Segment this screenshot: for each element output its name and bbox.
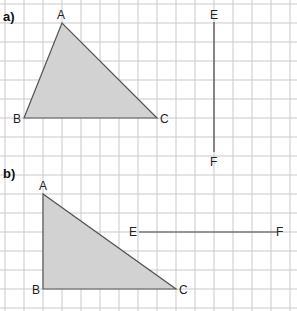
part-b: b) A B C E F — [3, 166, 283, 297]
vertex-c-label: C — [160, 112, 169, 126]
vertex-a-label: A — [39, 179, 47, 193]
vertex-a-label: A — [57, 8, 65, 22]
point-e-label: E — [129, 225, 137, 239]
point-f-label: F — [276, 225, 283, 239]
triangle-abc-a — [24, 23, 157, 118]
point-e-label: E — [210, 8, 218, 22]
part-a: a) A B C E F — [3, 8, 218, 169]
part-b-label: b) — [3, 166, 15, 181]
vertex-b-label: B — [32, 283, 40, 297]
diagram-canvas: a) A B C E F b) A B C E F — [0, 0, 297, 311]
part-a-label: a) — [3, 9, 15, 24]
vertex-c-label: C — [179, 283, 188, 297]
triangle-abc-b — [43, 194, 176, 289]
geometry-worksheet: a) A B C E F b) A B C E F — [0, 0, 297, 311]
point-f-label: F — [210, 155, 217, 169]
vertex-b-label: B — [13, 112, 21, 126]
